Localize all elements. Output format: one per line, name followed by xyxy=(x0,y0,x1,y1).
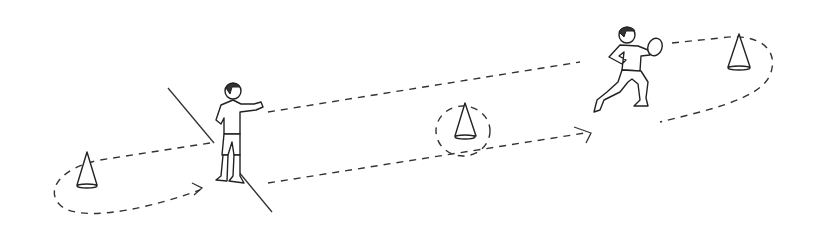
running-path-upper-right xyxy=(660,37,773,122)
start-line-lower xyxy=(238,171,272,212)
running-path-lower xyxy=(268,133,585,183)
cone-left xyxy=(77,152,97,188)
drill-diagram xyxy=(0,0,818,236)
cone-right xyxy=(728,34,750,70)
player-running-with-ball xyxy=(594,27,665,112)
running-path-loop xyxy=(54,143,210,213)
start-line xyxy=(168,88,214,143)
player-standing xyxy=(216,83,263,183)
running-path-upper xyxy=(268,62,580,112)
arrow-icon-lower-left xyxy=(192,183,202,195)
